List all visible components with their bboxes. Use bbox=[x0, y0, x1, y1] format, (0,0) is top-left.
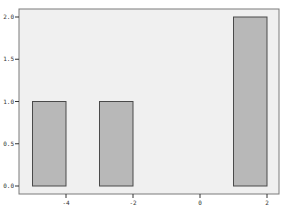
y-axis: 0.00.51.01.52.0 bbox=[3, 13, 19, 189]
x-tick-label: -2 bbox=[129, 199, 137, 206]
y-tick-label: 1.0 bbox=[3, 98, 14, 105]
bar-3 bbox=[234, 17, 268, 186]
x-tick-label: -4 bbox=[62, 199, 70, 206]
bar-2 bbox=[100, 102, 134, 187]
bar-1 bbox=[33, 102, 67, 187]
x-axis: -4-202 bbox=[62, 194, 269, 206]
y-tick-label: 0.0 bbox=[3, 182, 14, 189]
x-tick-label: 2 bbox=[265, 199, 269, 206]
y-tick-label: 0.5 bbox=[3, 140, 14, 147]
x-tick-label: 0 bbox=[198, 199, 202, 206]
y-tick-label: 1.5 bbox=[3, 55, 14, 62]
y-tick-label: 2.0 bbox=[3, 13, 14, 20]
bar-chart: 0.00.51.01.52.0 -4-202 bbox=[0, 0, 284, 212]
